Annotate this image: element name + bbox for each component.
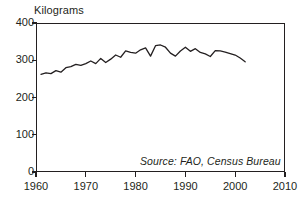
data-line-grain-production-per-person bbox=[41, 45, 245, 74]
chart-container: Kilograms 0100200300400 1960197019801990… bbox=[0, 0, 298, 204]
source-annotation: Source: FAO, Census Bureau bbox=[140, 155, 281, 167]
series-layer bbox=[0, 0, 298, 204]
